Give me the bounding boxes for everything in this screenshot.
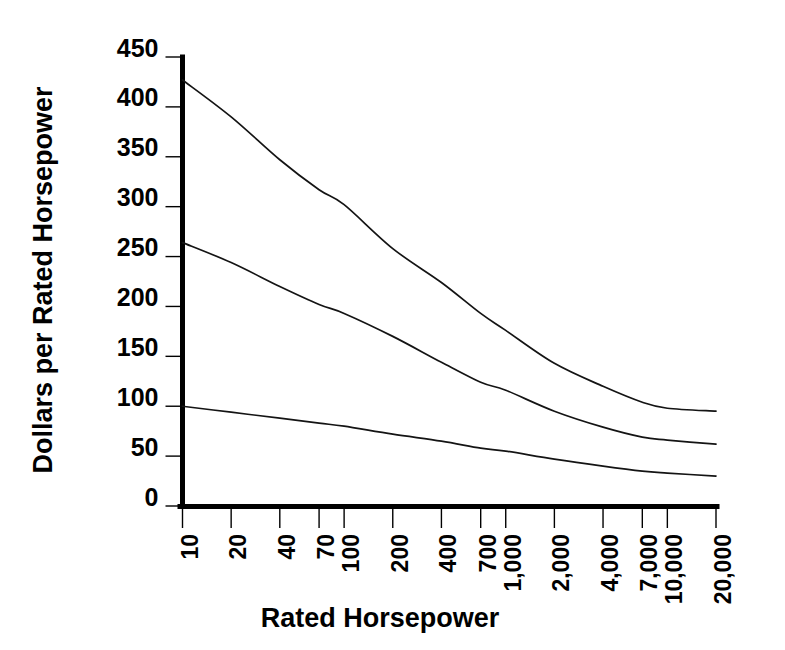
chart-figure: 050100150200250300350400450 102040701002…: [0, 0, 785, 650]
line-chart-svg: 050100150200250300350400450 102040701002…: [0, 0, 785, 650]
x-tick-label: 20,000: [710, 534, 736, 604]
curve-lower-curve: [183, 406, 717, 476]
chart-curves: [183, 80, 717, 476]
x-tick-label: 70: [313, 534, 339, 560]
x-tick-label: 700: [475, 534, 501, 572]
y-tick-label: 300: [117, 183, 159, 211]
x-tick-label: 7,000: [636, 534, 662, 592]
x-tick-label: 100: [338, 534, 364, 572]
y-axis-ticks: 050100150200250300350400450: [117, 34, 181, 511]
y-tick-label: 450: [117, 34, 159, 62]
y-tick-label: 400: [117, 83, 159, 111]
y-tick-label: 200: [117, 283, 159, 311]
x-tick-label: 40: [274, 534, 300, 560]
x-axis-ticks: 102040701002004007001,0002,0004,0007,000…: [177, 509, 737, 604]
y-tick-label: 250: [117, 233, 159, 261]
y-tick-label: 100: [117, 383, 159, 411]
x-tick-label: 10,000: [661, 534, 687, 604]
y-tick-label: 350: [117, 133, 159, 161]
x-tick-label: 20: [225, 534, 251, 560]
x-tick-label: 4,000: [597, 534, 623, 592]
curve-upper-curve: [183, 80, 717, 411]
x-tick-label: 200: [387, 534, 413, 572]
y-tick-label: 0: [145, 483, 159, 511]
chart-axes: [180, 57, 717, 507]
x-tick-label: 400: [435, 534, 461, 572]
y-tick-label: 50: [131, 433, 159, 461]
x-tick-label: 1,000: [500, 534, 526, 592]
x-tick-label: 10: [177, 534, 203, 560]
x-axis-title: Rated Horsepower: [261, 603, 500, 633]
y-axis-title: Dollars per Rated Horsepower: [28, 86, 58, 474]
y-tick-label: 150: [117, 333, 159, 361]
curve-middle-curve: [183, 243, 717, 445]
x-tick-label: 2,000: [548, 534, 574, 592]
